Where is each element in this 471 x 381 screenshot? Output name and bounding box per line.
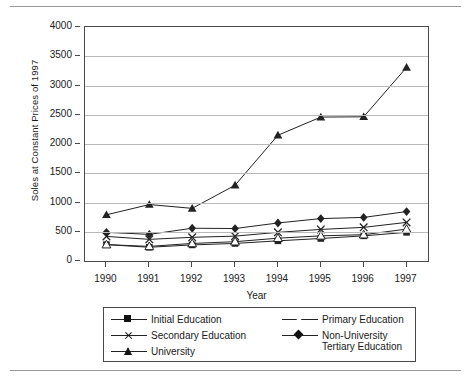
gridline (85, 232, 428, 233)
y-tick-label: 4000 (50, 21, 72, 31)
legend-item[interactable]: University (111, 345, 271, 360)
x-tick-label: 1994 (266, 274, 288, 284)
gridline (85, 203, 428, 204)
triangle-marker-icon (124, 347, 132, 355)
gridline (85, 115, 428, 116)
x-tick-mark (234, 262, 235, 267)
legend-marker (124, 347, 132, 355)
x-tick-label: 1992 (180, 274, 202, 284)
legend-column-right: Primary EducationNon-University Tertiary… (282, 313, 414, 360)
legend-item[interactable]: Primary Education (282, 313, 414, 328)
gridline (85, 144, 428, 145)
x-tick-label: 1993 (223, 274, 245, 284)
gridline (85, 56, 428, 57)
legend-label: Non-University Tertiary Education (322, 329, 402, 352)
y-tick-label: 1500 (50, 167, 72, 177)
legend-swatch (282, 329, 318, 342)
y-tick-mark (75, 231, 80, 232)
x-tick-label: 1990 (94, 274, 116, 284)
plot-area (84, 26, 429, 262)
x-tick-label: 1997 (394, 274, 416, 284)
open-triangle-marker-icon (295, 315, 303, 323)
y-tick-mark (75, 114, 80, 115)
gridline (85, 86, 428, 87)
legend-label: University (151, 345, 195, 357)
data-point-marker (403, 207, 411, 216)
data-point-marker (274, 131, 283, 139)
y-tick-label: 3500 (50, 50, 72, 60)
legend-item[interactable]: Non-University Tertiary Education (282, 329, 414, 359)
legend-swatch (111, 329, 147, 342)
y-tick-mark (75, 172, 80, 173)
y-tick-mark (75, 26, 80, 27)
legend-marker (295, 331, 302, 338)
square-marker-icon (124, 315, 131, 322)
gridline (85, 173, 428, 174)
x-tick-label: 1991 (137, 274, 159, 284)
data-point-marker (274, 219, 282, 228)
x-tick-label: 1996 (352, 274, 374, 284)
legend-label: Primary Education (322, 313, 404, 325)
chart-legend: Initial EducationSecondary EducationUniv… (103, 307, 416, 362)
x-tick-mark (363, 262, 364, 267)
legend-column-left: Initial EducationSecondary EducationUniv… (111, 313, 271, 361)
y-tick-mark (75, 143, 80, 144)
x-tick-mark (320, 262, 321, 267)
legend-swatch (111, 313, 147, 326)
x-tick-mark (191, 262, 192, 267)
legend-swatch (282, 313, 318, 326)
y-tick-label: 3000 (50, 80, 72, 90)
y-tick-label: 0 (66, 255, 72, 265)
y-tick-mark (75, 202, 80, 203)
y-tick-mark (75, 55, 80, 56)
legend-swatch (111, 345, 147, 358)
legend-item[interactable]: Secondary Education (111, 329, 271, 344)
legend-marker (124, 331, 133, 340)
y-tick-label: 2500 (50, 109, 72, 119)
y-tick-label: 500 (55, 226, 72, 236)
x-axis-title: Year (84, 290, 429, 301)
line-chart-figure: Soles at Constant Prices of 1997 0500100… (0, 0, 471, 381)
legend-label: Secondary Education (151, 329, 246, 341)
legend-marker (295, 315, 303, 323)
x-tick-mark (148, 262, 149, 267)
y-tick-mark (75, 260, 80, 261)
x-axis-ticks: 19901991199219931994199519961997 (84, 262, 429, 288)
y-tick-label: 2000 (50, 138, 72, 148)
legend-item[interactable]: Initial Education (111, 313, 271, 328)
cross-marker-icon (124, 331, 133, 340)
x-tick-mark (277, 262, 278, 267)
series-line (106, 67, 406, 214)
x-tick-label: 1995 (309, 274, 331, 284)
y-axis-ticks: 05001000150020002500300035004000 (0, 26, 80, 262)
diamond-marker-icon (294, 330, 304, 340)
y-tick-label: 1000 (50, 197, 72, 207)
legend-marker (124, 315, 131, 322)
data-point-marker (145, 200, 154, 208)
data-point-marker (360, 213, 368, 222)
x-tick-mark (105, 262, 106, 267)
legend-label: Initial Education (151, 313, 222, 325)
y-tick-mark (75, 85, 80, 86)
x-tick-mark (406, 262, 407, 267)
data-point-marker (317, 214, 325, 223)
data-point-marker (402, 63, 411, 71)
